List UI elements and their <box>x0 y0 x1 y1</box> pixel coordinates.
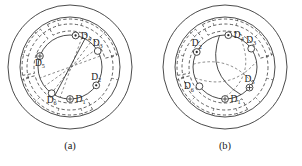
current-out-dot-icon <box>196 51 198 53</box>
slot-tick <box>112 54 119 56</box>
coil-label-d3: D3 <box>246 35 256 46</box>
slot-tick <box>212 109 214 116</box>
winding-figure: D1D2D3D4D5D6(a)D1D2D3D4D5D6(b) <box>0 0 302 166</box>
coil-label-d4: D4 <box>81 31 91 42</box>
coil-label-subscript: 2 <box>199 43 202 50</box>
coil-marker-d6[interactable]: D6 <box>47 90 57 107</box>
current-out-dot-icon <box>227 34 229 36</box>
current-out-dot-icon <box>95 84 97 86</box>
coil-label-subscript: 3 <box>100 42 103 49</box>
coil-label-subscript: 6 <box>54 99 57 106</box>
slot-tick <box>177 54 184 56</box>
figure-canvas: D1D2D3D4D5D6(a)D1D2D3D4D5D6(b) <box>0 0 302 166</box>
slot-tick <box>22 54 29 56</box>
coil-label-subscript: 5 <box>42 62 45 69</box>
panel-caption-panel-b: (b) <box>219 140 232 152</box>
slot-tick <box>57 19 59 26</box>
coil-label-d2: D2 <box>192 38 202 49</box>
slot-tick <box>212 19 214 26</box>
slot-tick <box>236 109 238 116</box>
coil-marker-d3[interactable]: D3 <box>93 38 103 55</box>
coil-label-d3: D3 <box>93 38 103 49</box>
slot-tick <box>57 109 59 116</box>
panel-a: D1D2D3D4D5D6(a) <box>8 5 132 152</box>
slot-tick <box>236 19 238 26</box>
coil-label-subscript: 2 <box>98 76 101 83</box>
current-out-dot-icon <box>74 34 76 36</box>
coil-label-subscript: 6 <box>191 86 194 93</box>
coil-label-subscript: 3 <box>253 39 256 46</box>
coil-label-subscript: 1 <box>82 98 85 105</box>
coil-label-subscript: 5 <box>251 78 254 85</box>
slot-tick <box>81 19 83 26</box>
coil-label-subscript: 1 <box>237 98 240 105</box>
coil-label-d6: D6 <box>47 95 57 106</box>
slot-tick <box>267 54 274 56</box>
slot-tick <box>112 78 119 80</box>
slot-tick <box>255 97 260 102</box>
slot-tick <box>100 97 105 102</box>
coil-marker-d3[interactable]: D3 <box>246 35 256 52</box>
coil-label-subscript: 4 <box>88 35 91 42</box>
coil-marker-d6[interactable]: D6 <box>184 81 203 92</box>
slot-tick <box>81 109 83 116</box>
coil-label-d4: D4 <box>234 30 244 41</box>
coil-label-subscript: 4 <box>241 35 244 42</box>
slot-tick <box>22 78 29 80</box>
slot-tick <box>177 78 184 80</box>
open-circle-icon <box>196 83 203 90</box>
panel-caption-panel-a: (a) <box>64 140 76 152</box>
panel-b: D1D2D3D4D5D6(b) <box>163 5 287 152</box>
slot-tick <box>267 78 274 80</box>
